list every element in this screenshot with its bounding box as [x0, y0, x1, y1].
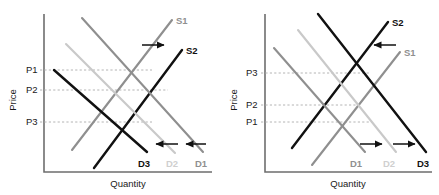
- chart-svg-left: P1 P2 P3 S1 S2 D3 D2 D1 Price Quantity: [0, 0, 219, 195]
- curve-d1: [274, 48, 365, 152]
- tick-label-p1: P1: [246, 116, 258, 127]
- tick-label-p2: P2: [26, 84, 38, 95]
- tick-label-p1: P1: [26, 64, 38, 75]
- curve-label-d1: D1: [350, 158, 363, 169]
- curve-label-s2: S2: [186, 45, 198, 56]
- curve-s1: [312, 52, 400, 165]
- curve-label-d2: D2: [166, 158, 178, 169]
- tick-label-p2: P2: [246, 99, 258, 110]
- chart-panel-left: P1 P2 P3 S1 S2 D3 D2 D1 Price Quantity: [0, 0, 219, 195]
- curve-d3: [318, 14, 426, 152]
- chart-svg-right: P3 P2 P1 S2 S1 D1 D2 D3 Price Quantity: [220, 0, 439, 195]
- y-axis-title: Price: [228, 89, 239, 111]
- y-axis-title: Price: [7, 89, 18, 111]
- curve-label-d3: D3: [138, 158, 150, 169]
- curve-label-d1: D1: [195, 158, 208, 169]
- tick-label-p3: P3: [246, 67, 258, 78]
- curve-label-d2: D2: [383, 158, 395, 169]
- curve-label-d3: D3: [417, 158, 429, 169]
- curve-d1: [82, 18, 203, 152]
- curve-label-s1: S1: [404, 47, 416, 58]
- x-axis-title: Quantity: [330, 178, 366, 189]
- tick-label-p3: P3: [26, 116, 38, 127]
- axis-lines: [44, 14, 212, 172]
- curve-s2: [94, 50, 182, 168]
- chart-panel-right: P3 P2 P1 S2 S1 D1 D2 D3 Price Quantity: [220, 0, 439, 195]
- x-axis-title: Quantity: [110, 178, 146, 189]
- curve-label-s2: S2: [392, 17, 404, 28]
- curve-label-s1: S1: [176, 15, 188, 26]
